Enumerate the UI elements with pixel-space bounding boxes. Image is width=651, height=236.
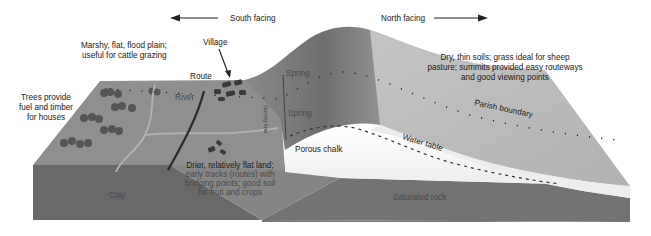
- north-facing-label: North facing: [381, 14, 426, 23]
- drier-land-label-line4: for fruit and crops: [198, 188, 262, 197]
- north-facing-arrow-icon: [434, 15, 488, 22]
- dry-soils-label-line2: pasture; summits provided easy routeways: [427, 63, 582, 72]
- village-pointer-arrow-icon: [219, 49, 231, 78]
- spring-bottom-label: Spring: [288, 109, 312, 118]
- south-facing-arrow-icon: [170, 15, 218, 22]
- spring-line-label: Spring line: [263, 105, 269, 134]
- dry-soils-label-line1: Dry, thin soils; grass ideal for sheep: [440, 53, 570, 62]
- trees-label-line1: Trees provide: [21, 93, 71, 102]
- trees-label-line2: fuel and timber: [19, 103, 73, 112]
- clay-label: Clay: [109, 191, 126, 200]
- porous-chalk-label: Porous chalk: [295, 145, 343, 154]
- vale-surface: [33, 70, 285, 170]
- dry-soils-label-line3: and good viewing points: [461, 73, 549, 82]
- marshy-label-line2: useful for cattle grazing: [82, 51, 167, 60]
- village-label: Village: [203, 38, 228, 47]
- saturated-rock-label: Saturated rock: [393, 193, 447, 202]
- escarpment-diagram: South facing North facing Marshy, flat, …: [0, 0, 651, 236]
- trees-label-line3: for houses: [27, 113, 65, 122]
- route-label: Route: [190, 72, 212, 81]
- south-facing-label: South facing: [230, 14, 276, 23]
- marshy-label-line1: Marshy, flat, flood plain;: [81, 41, 167, 50]
- drier-land-label-line2: early tracks (routes) with: [185, 170, 275, 179]
- river-label: River: [175, 93, 194, 102]
- spring-top-label: Spring: [286, 69, 310, 78]
- drier-land-label-line1: Drier, relatively flat land;: [186, 161, 273, 170]
- drier-land-label-line3: bridging points; good soil: [185, 179, 276, 188]
